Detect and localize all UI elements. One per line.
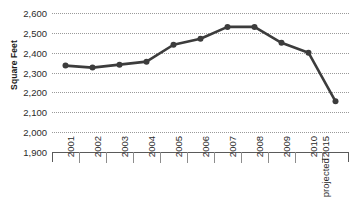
data-point-marker: 2008: 2530 [252, 24, 258, 30]
data-point-marker: 2010: 2400 [306, 50, 312, 56]
line-chart: Square Feet 2,6002,5002,4002,3002,2002,1… [0, 0, 357, 220]
x-axis-tick [268, 152, 269, 163]
x-axis-tick-label: 2008 [255, 136, 265, 190]
y-axis-tick-label: 2,100 [23, 107, 47, 118]
y-axis-tick-labels: 2,6002,5002,4002,3002,2002,1002,0001,900 [0, 13, 50, 152]
x-axis-tick-label: 2007 [228, 136, 238, 190]
x-axis-tick-label: 2002 [93, 136, 103, 190]
x-axis-tick [133, 152, 134, 163]
x-axis-tick-label: 2015projected [321, 136, 331, 190]
x-axis-tick [295, 152, 296, 163]
x-axis-tick-labels: 2001200220032004200520062007200820092010… [52, 163, 349, 218]
data-point-marker: 2015 projected: 2155 [333, 98, 339, 104]
x-axis-tick-label: 2005 [174, 136, 184, 190]
x-axis-tick-label: 2004 [147, 136, 157, 190]
x-axis-tick [79, 152, 80, 163]
x-axis-tick-label: 2010 [309, 136, 319, 190]
x-axis-tick [106, 152, 107, 163]
y-axis-tick-label: 2,400 [23, 47, 47, 58]
y-axis-tick-label: 2,000 [23, 127, 47, 138]
y-axis-tick-label: 2,600 [23, 8, 47, 19]
data-point-marker: 2003: 2340 [117, 62, 123, 68]
x-axis-tick [214, 152, 215, 163]
y-axis-tick-label: 2,200 [23, 87, 47, 98]
x-axis-tick [160, 152, 161, 163]
x-axis-tick-label: 2003 [120, 136, 130, 190]
plot-area: 2001: 23352002: 23252003: 23402004: 2355… [52, 13, 349, 152]
data-point-marker: 2002: 2325 [90, 65, 96, 71]
data-point-marker: 2001: 2335 [63, 63, 69, 69]
data-point-marker: 2007: 2530 [225, 24, 231, 30]
series-layer: 2001: 23352002: 23252003: 23402004: 2355… [52, 13, 349, 152]
x-axis-tick [187, 152, 188, 163]
x-axis-tick-label: 2001 [66, 136, 76, 190]
y-axis-tick-label: 1,900 [23, 147, 47, 158]
data-point-marker: 2009: 2450 [279, 40, 285, 46]
x-axis-tick-label: 2006 [201, 136, 211, 190]
x-axis-tick [241, 152, 242, 163]
y-axis-tick-label: 2,300 [23, 67, 47, 78]
data-point-marker: 2006: 2470 [198, 36, 204, 42]
data-point-marker: 2005: 2440 [171, 42, 177, 48]
x-axis-tick-label: 2009 [282, 136, 292, 190]
data-point-marker: 2004: 2355 [144, 59, 150, 65]
y-axis-tick-label: 2,500 [23, 27, 47, 38]
